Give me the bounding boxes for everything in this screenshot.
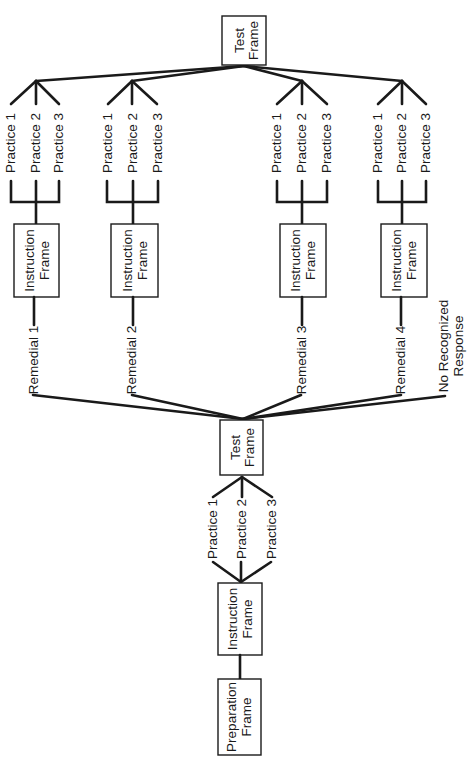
top-test-frame: Test Frame <box>222 16 266 65</box>
lower-instruction-line1: Instruction <box>225 588 240 650</box>
practice-label: Practice 3 <box>150 113 165 173</box>
preparation-line2: Frame <box>239 697 254 736</box>
practice-label: Practice 3 <box>319 113 334 173</box>
instruction-frame-line2: Frame <box>37 241 52 280</box>
instruction-frame-line1: Instruction <box>22 229 37 291</box>
no-recognized-response: No Recognized Response <box>436 300 466 392</box>
no-response-line1: No Recognized <box>436 300 451 392</box>
middle-test-frame: Test Frame <box>220 420 263 475</box>
practice-label: Practice 2 <box>28 113 43 173</box>
practice-label: Practice 1 <box>269 113 284 173</box>
upper-branch-1: Practice 1 Practice 2 Practice 3 Instruc… <box>3 81 66 394</box>
instruction-frame-line2: Frame <box>303 241 318 280</box>
upper-branch-4: Practice 1 Practice 2 Practice 3 Instruc… <box>370 81 433 394</box>
middle-test-frame-line2: Frame <box>242 428 257 467</box>
instruction-frame-line1: Instruction <box>288 229 303 291</box>
instruction-frame-line2: Frame <box>135 241 150 280</box>
branching-program-diagram: Test Frame Practice 1 Practice 2 Practic… <box>0 0 469 758</box>
upper-branch-3: Practice 1 Practice 2 Practice 3 Instruc… <box>269 81 334 394</box>
no-response-line2: Response <box>451 316 466 377</box>
top-test-frame-line1: Test <box>232 28 247 53</box>
middle-test-frame-line1: Test <box>228 435 243 460</box>
lower-instruction-line2: Frame <box>240 599 255 638</box>
middle-fanin-connectors <box>33 395 445 419</box>
instruction-frame-line1: Instruction <box>389 229 404 291</box>
practice-label: Practice 3 <box>51 113 66 173</box>
instruction-frame-line2: Frame <box>404 241 419 280</box>
practice-label: Practice 1 <box>100 113 115 173</box>
practice-label: Practice 2 <box>125 113 140 173</box>
instruction-frame-line1: Instruction <box>120 229 135 291</box>
practice-label: Practice 2 <box>294 113 309 173</box>
practice-label: Practice 3 <box>264 499 279 559</box>
diagram-svg: Test Frame Practice 1 Practice 2 Practic… <box>0 0 469 758</box>
remedial-label: Remedial 4 <box>393 325 408 394</box>
upper-branch-2: Practice 1 Practice 2 Practice 3 Instruc… <box>100 81 165 394</box>
practice-label: Practice 1 <box>205 499 220 559</box>
preparation-line1: Preparation <box>224 682 239 752</box>
practice-label: Practice 1 <box>370 113 385 173</box>
lower-practices: Practice 1 Practice 2 Practice 3 <box>205 477 279 582</box>
lower-instruction-frame: Instruction Frame <box>218 583 262 655</box>
remedial-label: Remedial 2 <box>124 326 139 394</box>
top-test-frame-line2: Frame <box>246 21 261 60</box>
top-fanout-connectors <box>36 66 402 81</box>
practice-label: Practice 1 <box>3 113 18 173</box>
remedial-label: Remedial 3 <box>294 326 309 394</box>
practice-label: Practice 2 <box>394 113 409 173</box>
practice-label: Practice 2 <box>234 499 249 559</box>
preparation-frame: Preparation Frame <box>218 679 261 755</box>
practice-label: Practice 3 <box>418 113 433 173</box>
remedial-label: Remedial 1 <box>26 326 41 394</box>
